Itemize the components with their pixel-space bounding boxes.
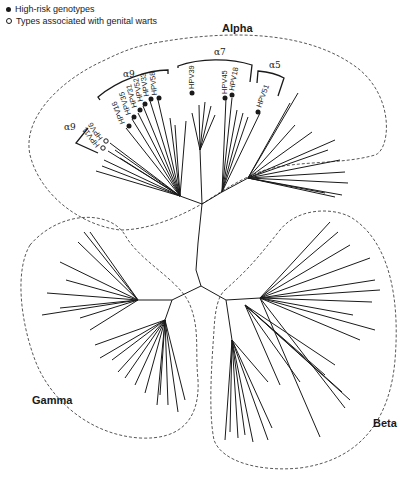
tip-label-hpv51: HPV51 [254, 83, 271, 108]
tip-label-hpv18: HPV18 [227, 66, 240, 91]
bracket-label-a5: α5 [269, 60, 281, 70]
tree-backbone [172, 204, 226, 300]
open-circle-icon [101, 146, 105, 150]
filled-circle-icon [132, 115, 137, 120]
filled-circle-icon [256, 110, 261, 115]
filled-circle-icon [138, 108, 143, 113]
clade-label-gamma: Gamma [32, 394, 73, 406]
open-circle-icon [104, 139, 108, 143]
filled-circle-icon [190, 91, 195, 96]
filled-circle-icon [143, 102, 148, 107]
filled-circle-icon [230, 93, 235, 98]
bracket-label-a9-top: α9 [123, 69, 135, 79]
clade-label-beta: Beta [373, 417, 398, 429]
filled-circle-icon [149, 97, 154, 102]
tip-label-hpv39: HPV39 [187, 65, 196, 89]
beta-subtree [225, 222, 380, 442]
clade-label-alpha: Alpha [222, 22, 253, 34]
alpha-subtree [96, 93, 348, 204]
tip-label-hpv58: HPV58 [148, 71, 159, 96]
phylogenetic-tree: HPV16 HPV35 HPV31 HPV52 HPV33 HPV58 HPV6… [0, 0, 414, 492]
beta-boundary [211, 211, 396, 469]
filled-circle-icon [127, 124, 132, 129]
bracket-label-a9-bottom: α9 [64, 122, 76, 132]
gamma-subtree [42, 232, 185, 412]
filled-circle-icon [157, 96, 162, 101]
filled-circle-icon [223, 96, 228, 101]
bracket-label-a7: α7 [214, 47, 226, 57]
